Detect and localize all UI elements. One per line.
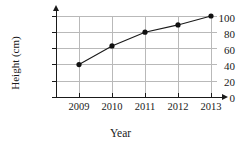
data-point [76,62,81,67]
data-point [208,13,213,18]
x-axis-title: Year [0,127,241,139]
data-point [109,43,114,48]
data-point [175,22,180,27]
line-chart: Height (cm) 100 80 60 40 20 0 2009 2010 … [0,0,241,149]
data-point [142,30,147,35]
series-line [79,16,211,65]
series-markers [76,13,213,67]
